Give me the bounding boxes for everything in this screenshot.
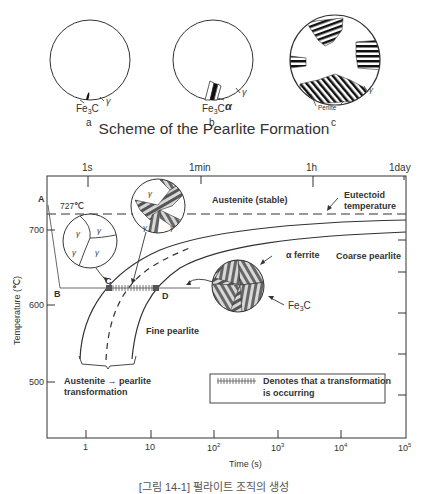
austenite-grains-circle: γ γ γ γ [63,214,117,268]
eutectoid-pointer [329,198,338,208]
fe3c-label: Fe3C [288,300,311,312]
panel-a-gamma: γ [106,96,111,106]
transformation-label-1: Austenite → pearlite [64,376,151,386]
top-tick-1min: 1min [189,162,211,173]
x-tick-10: 10 [145,442,155,452]
panel-b: Fe3C α γ b [173,20,253,128]
panel-a: Fe3C γ a [50,20,130,128]
fine-pearlite-label: Fine pearlite [146,326,199,336]
x-tick-100: 102 [207,442,221,453]
transformation-hatch [113,285,155,291]
top-tick-1day: 1day [389,162,411,173]
arrow-to-hatch [133,232,146,282]
ttt-chart: 1s 1min 1h 1day 700 600 500 1 10 102 103… [12,162,412,469]
point-b: B [54,289,61,299]
grain-circle-a [50,20,130,100]
panel-b-fe3c-label: Fe3C [202,103,225,115]
alpha-ferrite-label: α ferrite [286,250,320,260]
austenite-stable-label: Austenite (stable) [212,195,288,205]
top-tick-1h: 1h [306,162,317,173]
fe3c-nucleus-icon [86,92,89,100]
scheme-title: Scheme of the Pearlite Formation [0,120,428,138]
y-tick-500: 500 [29,377,44,387]
half-curve [106,247,192,360]
eutectoid-label-2: temperature [344,201,396,211]
figure-caption: [그림 14-1] 펄라이트 조직의 생성 [0,478,428,494]
coarse-pearlite-label: Coarse pearlite [336,251,401,261]
transformation-label-2: transformation [64,387,128,397]
transformation-bracket [79,356,136,369]
point-c-marker [106,285,112,291]
y-tick-700: 700 [29,225,44,235]
x-axis-label: Time (s) [229,459,262,469]
panel-b-gamma: γ [242,87,247,97]
nucleation-circle: γ γ γ [131,178,190,235]
legend-box: Denotes that a transformation is occurri… [210,374,391,403]
y-axis-label: Temperature (℃) [12,276,22,345]
fe3c-pointer [271,298,284,305]
panel-b-alpha: α [225,100,233,112]
panel-c-perlite-label: Perlite [318,104,337,111]
x-tick-1000: 103 [271,442,285,453]
legend-text-2: is occurring [263,388,315,398]
x-tick-10000: 104 [334,442,348,453]
pearlite-colony-circle [210,258,268,314]
arrow-from-pearlite [188,279,213,283]
panel-a-fe3c-label: Fe3C [76,103,99,115]
legend-text-1: Denotes that a transformation [263,376,391,386]
point-d-marker [153,285,159,291]
panel-c-gamma: γ [369,85,374,94]
point-d: D [162,291,169,301]
point-a: A [38,194,45,204]
eutectoid-label-1: Eutectoid [344,190,385,200]
x-tick-1: 1 [83,442,88,452]
y-tick-600: 600 [29,300,44,310]
eutectoid-temp-label: 727℃ [60,201,84,211]
top-tick-1s: 1s [82,162,93,173]
x-tick-100000: 105 [398,442,412,453]
panel-c: Perlite γ c [290,15,382,128]
